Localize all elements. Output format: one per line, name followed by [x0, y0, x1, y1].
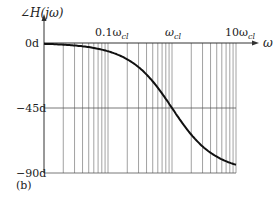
x-tick-0p1wcl: 0.1ωcl — [95, 27, 129, 41]
x-tick-10wcl: 10ωcl — [225, 27, 255, 41]
x-axis-arrow-icon — [252, 41, 259, 46]
x-tick-wcl: ωcl — [165, 27, 181, 41]
y-tick-90: −90d — [16, 168, 46, 179]
x-axis-label: ω — [263, 37, 273, 49]
phase-curve — [44, 44, 236, 165]
panel-label: (b) — [16, 180, 32, 191]
y-axis-label: ∠H(jω) — [20, 7, 63, 19]
y-tick-45: −45d — [16, 103, 46, 114]
y-tick-0: 0d — [25, 38, 39, 49]
